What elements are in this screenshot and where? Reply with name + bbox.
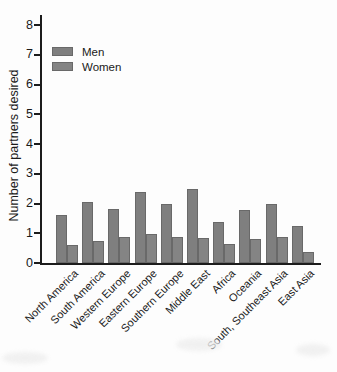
bar-men-1	[82, 202, 93, 263]
scan-artifact	[176, 338, 222, 351]
y-tick-label-6: 6	[6, 78, 33, 91]
y-tick-mark-1	[34, 232, 41, 234]
y-tick-label-3: 3	[6, 167, 33, 180]
legend: Men Women	[52, 44, 121, 74]
y-axis-line	[40, 15, 42, 265]
bar-women-0	[67, 245, 78, 263]
bar-women-9	[303, 252, 314, 263]
scan-artifact	[2, 352, 48, 364]
bar-women-4	[172, 237, 183, 263]
bar-men-6	[213, 222, 224, 263]
y-tick-mark-5	[34, 113, 41, 115]
y-tick-mark-4	[34, 143, 41, 145]
bar-women-2	[119, 237, 130, 263]
bar-chart-figure: Number of partners desired 012345678 Nor…	[0, 0, 337, 372]
y-tick-label-0: 0	[6, 257, 33, 270]
y-tick-mark-0	[34, 262, 41, 264]
legend-label-women: Women	[82, 61, 121, 73]
bar-men-3	[135, 192, 146, 263]
y-tick-mark-3	[34, 173, 41, 175]
bar-women-6	[224, 244, 235, 263]
x-axis-line	[40, 263, 321, 265]
men-swatch	[52, 47, 73, 56]
y-tick-label-7: 7	[6, 48, 33, 61]
bar-women-5	[198, 238, 209, 263]
bar-men-5	[187, 189, 198, 263]
y-tick-label-8: 8	[6, 19, 33, 32]
bar-women-1	[93, 241, 104, 263]
y-tick-label-4: 4	[6, 138, 33, 151]
bar-men-8	[266, 204, 277, 264]
bar-men-2	[108, 209, 119, 263]
scan-artifact	[296, 344, 330, 356]
bar-women-8	[277, 237, 288, 263]
y-tick-label-2: 2	[6, 197, 33, 210]
legend-item-men: Men	[52, 44, 121, 59]
bar-women-7	[250, 239, 261, 263]
bar-men-7	[239, 210, 250, 263]
bar-women-3	[146, 234, 157, 263]
y-tick-mark-6	[34, 84, 41, 86]
bar-men-4	[161, 204, 172, 264]
y-tick-mark-7	[34, 54, 41, 56]
bar-men-9	[292, 226, 303, 263]
bar-men-0	[56, 215, 67, 263]
y-tick-mark-2	[34, 203, 41, 205]
legend-label-men: Men	[82, 46, 104, 58]
women-swatch	[52, 62, 73, 71]
y-tick-mark-8	[34, 24, 41, 26]
y-tick-label-5: 5	[6, 108, 33, 121]
y-tick-label-1: 1	[6, 227, 33, 240]
legend-item-women: Women	[52, 59, 121, 74]
